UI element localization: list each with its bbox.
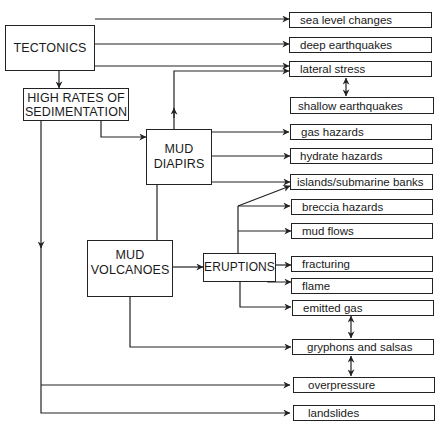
arrow-sedimentation-diapirs [101, 120, 146, 137]
outcome-label: flame [302, 279, 330, 293]
outcome-label: gas hazards [301, 125, 364, 139]
outcome-label: breccia hazards [302, 200, 383, 214]
mud-diapirs-box: MUD DIAPIRS [146, 129, 212, 185]
mud-diapirs-label-line2: DIAPIRS [154, 157, 205, 172]
mud-volcanoes-label-line2: VOLCANOES [91, 263, 170, 278]
outcome-label: lateral stress [300, 62, 365, 76]
tectonics-box: TECTONICS [5, 25, 95, 71]
eruptions-label: ERUPTIONS [204, 260, 275, 275]
mud-volcanoes-label-line1: MUD [116, 248, 145, 263]
arrow-eruptions-islands [238, 186, 290, 206]
outcome-label: gryphons and salsas [307, 340, 412, 354]
outcome-label: sea level changes [300, 13, 392, 27]
outcome-hydrate-hazards: hydrate hazards [290, 148, 433, 164]
outcome-sea-level-changes: sea level changes [289, 12, 432, 28]
arrow-eruptions-emitted-gas [240, 281, 291, 307]
sedimentation-label-line2: SEDIMENTATION [25, 105, 127, 119]
outcome-label: mud flows [302, 224, 354, 238]
arrow-volcanoes-gryphons [130, 296, 291, 347]
arrow-diapirs-lateral-stress [174, 71, 289, 129]
outcome-label: hydrate hazards [300, 149, 382, 163]
outcome-flame: flame [291, 278, 433, 294]
mud-volcanoes-box: MUD VOLCANOES [87, 240, 173, 297]
outcome-label: deep earthquakes [300, 38, 392, 52]
outcome-label: islands/submarine banks [297, 175, 424, 189]
outcome-deep-earthquakes: deep earthquakes [289, 37, 432, 53]
tectonics-label: TECTONICS [14, 41, 87, 56]
sedimentation-label-line1: HIGH RATES OF [27, 91, 125, 105]
outcome-mud-flows: mud flows [291, 223, 433, 239]
outcome-label: emitted gas [303, 301, 362, 315]
outcome-shallow-earthquakes: shallow earthquakes [290, 97, 434, 114]
outcome-label: overpressure [308, 378, 375, 392]
mud-volcano-flow-diagram: TECTONICS HIGH RATES OF SEDIMENTATION MU… [0, 0, 448, 431]
outcome-breccia-hazards: breccia hazards [291, 199, 433, 215]
outcome-fracturing: fracturing [291, 256, 433, 272]
sedimentation-box: HIGH RATES OF SEDIMENTATION [23, 88, 129, 121]
mud-diapirs-label-line1: MUD [165, 142, 194, 157]
outcome-landslides: landslides [293, 405, 435, 421]
outcome-label: shallow earthquakes [298, 99, 403, 113]
outcome-overpressure: overpressure [293, 377, 435, 393]
outcome-emitted-gas: emitted gas [292, 300, 434, 316]
outcome-gas-hazards: gas hazards [290, 124, 432, 140]
outcome-islands-submarine-banks: islands/submarine banks [290, 174, 433, 190]
outcome-gryphons-and-salsas: gryphons and salsas [292, 339, 434, 355]
outcome-lateral-stress: lateral stress [289, 61, 432, 77]
outcome-label: fracturing [302, 257, 350, 271]
outcome-label: landslides [308, 406, 359, 420]
eruptions-box: ERUPTIONS [203, 253, 276, 282]
